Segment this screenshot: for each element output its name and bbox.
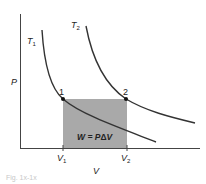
t1-label: T1	[27, 36, 37, 47]
point-2	[124, 97, 128, 101]
work-label: W = PΔV	[77, 132, 114, 142]
x-axis-label: V	[93, 166, 100, 176]
v1-label: V1	[57, 153, 67, 164]
figure-caption: Fig. 1x-1x	[6, 174, 37, 181]
t2-label: T2	[71, 20, 81, 31]
point-1-label: 1	[59, 87, 64, 97]
pv-diagram: 1 2 T1 T2 P V V1 V2 W = PΔV	[0, 0, 206, 184]
y-axis-label: P	[11, 77, 17, 87]
v2-label: V2	[121, 153, 131, 164]
point-1	[61, 97, 65, 101]
point-2-label: 2	[123, 87, 128, 97]
